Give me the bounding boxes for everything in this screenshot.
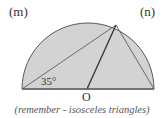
label-m: (m) xyxy=(9,5,28,18)
angle-label: 35° xyxy=(41,76,56,87)
caption-hint: (remember - isosceles triangles) xyxy=(0,104,164,115)
center-label-o: O xyxy=(82,91,91,103)
label-n: (n) xyxy=(140,5,155,18)
